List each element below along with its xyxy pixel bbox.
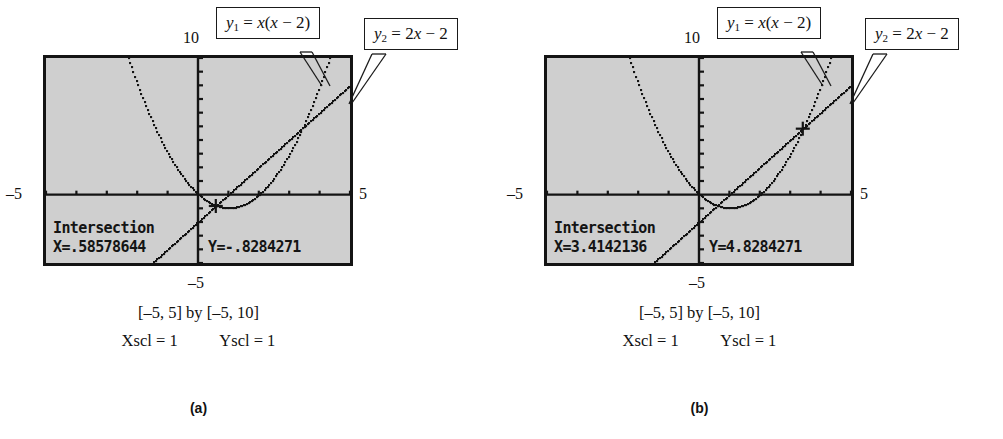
callout-y2-rhs-a: = 2x − 2 — [391, 24, 447, 43]
graph-canvas-a: IntersectionX=.58578644Y=-.8284271 — [43, 55, 353, 266]
callout-y1-var-a: y — [226, 13, 234, 32]
calculator-screen-b: IntersectionX=3.4142136Y=4.8284271 — [544, 55, 854, 266]
caption-b: [–5, 5] by [–5, 10] Xscl = 1 Yscl = 1 — [501, 300, 898, 353]
callout-y2-rhs-b: = 2x − 2 — [892, 24, 948, 43]
readout-x: X=.58578644 — [53, 238, 146, 256]
callout-y1-a: y1 = x(x − 2) — [216, 7, 320, 39]
caption-xscl-b: Xscl = 1 — [623, 331, 679, 350]
axis-label-xmin-a: –5 — [6, 186, 22, 202]
caption-yscl-a: Yscl = 1 — [219, 331, 275, 350]
callout-y1-rhs-b: = x(x − 2) — [744, 13, 811, 32]
callout-y1-rhs-a: = x(x − 2) — [243, 13, 310, 32]
figure-id-a: (a) — [0, 400, 397, 416]
callout-y1-sub-b: 1 — [735, 21, 741, 33]
callout-y2-var-a: y — [374, 24, 382, 43]
axis-label-ymin-a: –5 — [188, 275, 204, 291]
callout-y2-a: y2 = 2x − 2 — [364, 18, 458, 50]
caption-window-a: [–5, 5] by [–5, 10] — [138, 303, 259, 322]
calculator-screen-a: IntersectionX=.58578644Y=-.8284271 — [43, 55, 353, 266]
caption-window-b: [–5, 5] by [–5, 10] — [639, 303, 760, 322]
readout-title: Intersection — [554, 219, 655, 237]
callout-y2-sub-a: 2 — [382, 32, 388, 44]
axis-label-ymax-a: 10 — [183, 30, 199, 46]
figure-b: 10 –5 5 –5 IntersectionX=3.4142136Y=4.82… — [501, 0, 1002, 439]
figure-id-b: (b) — [501, 400, 898, 416]
callout-y2-sub-b: 2 — [883, 32, 889, 44]
readout-x: X=3.4142136 — [554, 238, 647, 256]
graph-canvas-b: IntersectionX=3.4142136Y=4.8284271 — [544, 55, 854, 266]
callout-y1-b: y1 = x(x − 2) — [717, 7, 821, 39]
axis-label-ymax-b: 10 — [684, 30, 700, 46]
axis-label-xmin-b: –5 — [507, 186, 523, 202]
callout-y2-var-b: y — [875, 24, 883, 43]
readout-y: Y=4.8284271 — [709, 238, 802, 256]
callout-y1-var-b: y — [727, 13, 735, 32]
axis-label-xmax-a: 5 — [359, 186, 367, 202]
readout-y: Y=-.8284271 — [208, 238, 301, 256]
axis-label-ymin-b: –5 — [689, 275, 705, 291]
callout-y2-b: y2 = 2x − 2 — [865, 18, 959, 50]
readout-title: Intersection — [53, 219, 154, 237]
caption-xscl-a: Xscl = 1 — [122, 331, 178, 350]
figure-a: 10 –5 5 –5 IntersectionX=.58578644Y=-.82… — [0, 0, 501, 439]
caption-yscl-b: Yscl = 1 — [720, 331, 776, 350]
axis-label-xmax-b: 5 — [860, 186, 868, 202]
callout-y1-sub-a: 1 — [234, 21, 240, 33]
caption-a: [–5, 5] by [–5, 10] Xscl = 1 Yscl = 1 — [0, 300, 397, 353]
